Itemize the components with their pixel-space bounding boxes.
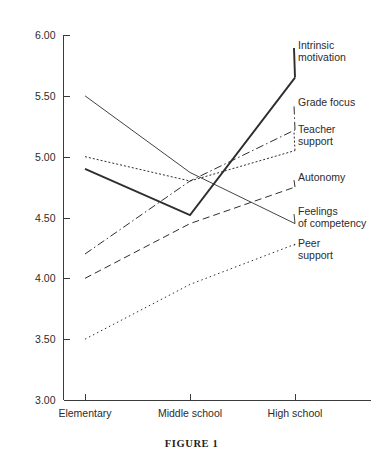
leader-line-teacher-support: [294, 132, 295, 151]
y-axis-ticks: [64, 36, 70, 401]
legend-label-intrinsic-motivation: Intrinsic motivation: [298, 40, 346, 63]
series-line-teacher-support: [85, 151, 295, 181]
series-line-intrinsic-motivation: [85, 78, 295, 215]
y-tick-label-4.50: 4.50: [35, 212, 56, 224]
x-tick-label-elementary: Elementary: [58, 407, 112, 419]
legend-label-teacher-support: Teacher support: [298, 124, 335, 147]
series-line-grade-focus: [85, 130, 295, 254]
legend-label-feelings-of-competency: Feelings of competency: [298, 206, 366, 229]
figure-caption: FIGURE 1: [0, 438, 383, 449]
legend-label-grade-focus: Grade focus: [298, 97, 355, 109]
legend-label-peer-support: Peer support: [298, 238, 333, 261]
series-line-peer-support: [85, 244, 295, 339]
legend-label-autonomy: Autonomy: [298, 172, 345, 184]
y-tick-label-5.00: 5.00: [35, 151, 56, 163]
y-tick-label-6.00: 6.00: [35, 29, 56, 41]
figure-container: 3.003.504.004.505.005.506.00 ElementaryM…: [0, 0, 383, 463]
x-tick-label-high-school: High school: [268, 407, 323, 419]
y-tick-label-4.00: 4.00: [35, 272, 56, 284]
y-tick-label-5.50: 5.50: [35, 90, 56, 102]
leader-line-grade-focus: [294, 105, 295, 130]
leader-line-feelings-of-competency: [294, 214, 295, 224]
y-axis-tick-labels: 3.003.504.004.505.005.506.00: [35, 29, 56, 406]
y-tick-label-3.50: 3.50: [35, 333, 56, 345]
x-axis-ticks: [86, 394, 296, 400]
line-chart: 3.003.504.004.505.005.506.00 ElementaryM…: [0, 0, 383, 463]
series-lines: [85, 78, 295, 340]
y-tick-label-3.00: 3.00: [35, 394, 56, 406]
x-tick-label-middle-school: Middle school: [158, 407, 222, 419]
x-axis-tick-labels: ElementaryMiddle schoolHigh school: [58, 407, 322, 419]
leader-line-intrinsic-motivation: [294, 48, 295, 78]
leader-line-autonomy: [294, 180, 295, 187]
